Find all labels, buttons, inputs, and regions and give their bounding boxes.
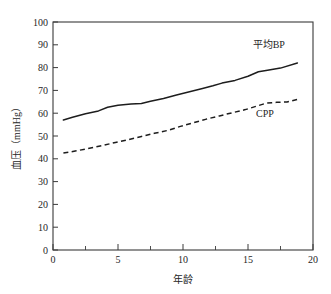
y-tick-group-3: 30 bbox=[38, 176, 58, 187]
x-tick-label: 0 bbox=[51, 254, 56, 265]
x-axis-title: 年龄 bbox=[173, 273, 193, 285]
y-tick-label: 30 bbox=[38, 176, 48, 187]
y-tick-group-9: 90 bbox=[38, 39, 58, 50]
x-tick-group-4: 20 bbox=[308, 244, 318, 265]
x-tick-label: 20 bbox=[308, 254, 318, 265]
x-tick-group-3: 15 bbox=[243, 244, 253, 265]
y-tick-group-6: 60 bbox=[38, 108, 58, 119]
x-tick-group-1: 5 bbox=[116, 244, 121, 265]
x-axis: 0 5 10 15 20 bbox=[51, 244, 319, 265]
x-tick-group-2: 10 bbox=[178, 244, 188, 265]
y-tick-label: 70 bbox=[38, 85, 48, 96]
y-tick-label: 0 bbox=[43, 245, 48, 256]
y-tick-label: 40 bbox=[38, 153, 48, 164]
y-tick-label: 50 bbox=[38, 131, 48, 142]
x-tick-label: 5 bbox=[116, 254, 121, 265]
y-tick-group-5: 50 bbox=[38, 131, 58, 142]
y-axis-title: 血压（mmHg） bbox=[10, 102, 22, 170]
y-axis: 0 10 20 30 40 50 bbox=[33, 17, 58, 256]
y-tick-group-10: 100 bbox=[33, 17, 58, 28]
series-label-mean-bp: 平均BP bbox=[253, 39, 286, 50]
y-tick-label: 80 bbox=[38, 62, 48, 73]
x-tick-label: 10 bbox=[178, 254, 188, 265]
y-tick-label: 90 bbox=[38, 39, 48, 50]
chart-canvas: 0 10 20 30 40 50 bbox=[0, 0, 331, 294]
y-tick-group-4: 40 bbox=[38, 153, 58, 164]
blood-pressure-age-chart: 0 10 20 30 40 50 bbox=[0, 0, 331, 294]
y-tick-group-7: 70 bbox=[38, 85, 58, 96]
plot-frame bbox=[53, 22, 313, 250]
y-tick-label: 60 bbox=[38, 108, 48, 119]
y-tick-label: 100 bbox=[33, 17, 48, 28]
x-tick-group-0: 0 bbox=[51, 244, 56, 265]
y-tick-label: 20 bbox=[38, 199, 48, 210]
y-tick-label: 10 bbox=[38, 222, 48, 233]
x-tick-label: 15 bbox=[243, 254, 253, 265]
y-tick-group-1: 10 bbox=[38, 222, 58, 233]
y-tick-group-2: 20 bbox=[38, 199, 58, 210]
y-tick-group-8: 80 bbox=[38, 62, 58, 73]
series-label-cpp: CPP bbox=[256, 108, 274, 119]
